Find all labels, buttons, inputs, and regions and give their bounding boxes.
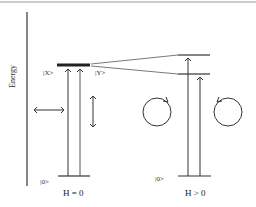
ground-state-left-label: |0> — [40, 179, 49, 186]
ground-state-right-label: |0> — [155, 176, 164, 183]
caption-h-positive: H > 0 — [185, 189, 206, 198]
caption-h-zero: H = 0 — [63, 189, 84, 198]
state-y-label: |Y> — [95, 70, 105, 77]
circular-polarization-left-icon — [143, 97, 171, 126]
energy-axis-label: Energy — [8, 65, 17, 88]
split-line-upper — [91, 55, 178, 64]
energy-level-diagram — [0, 0, 256, 207]
circular-polarization-right-icon — [214, 97, 242, 126]
state-x-label: |X> — [43, 70, 53, 77]
